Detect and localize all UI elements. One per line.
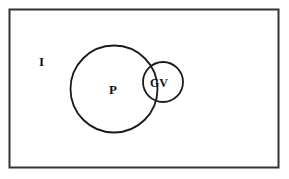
universe-label: I (39, 54, 44, 69)
set-p-label: P (109, 82, 117, 97)
venn-diagram: I P GV (0, 0, 289, 179)
set-gv-label: GV (150, 76, 168, 90)
